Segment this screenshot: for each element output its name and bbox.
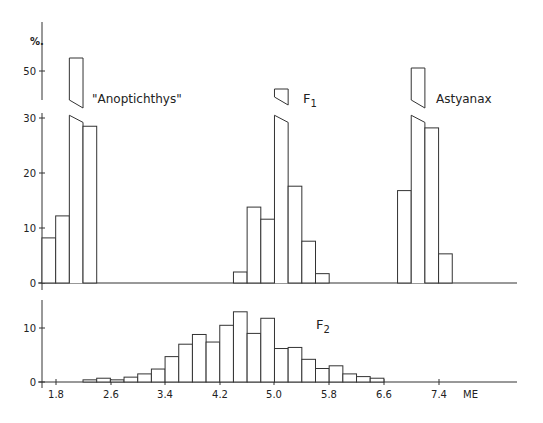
histogram-bar xyxy=(370,378,384,382)
histogram-bar xyxy=(261,318,275,382)
histogram-bar xyxy=(110,380,124,382)
histogram-bar-break-top xyxy=(274,89,288,105)
x-tick-label: 1.8 xyxy=(48,389,64,400)
y-unit-label: %. xyxy=(30,36,44,47)
histogram-bar xyxy=(439,254,453,283)
upper-y-tick-label: 50 xyxy=(23,66,36,77)
histogram-bar xyxy=(233,312,247,382)
histogram-bar-break-top xyxy=(69,58,83,108)
histogram-bar xyxy=(329,366,343,382)
upper-y-tick-label: 0 xyxy=(30,278,36,289)
x-tick-label: 5.8 xyxy=(321,389,337,400)
histogram-bar xyxy=(425,128,439,283)
histogram-bar xyxy=(288,186,302,283)
histogram-bar xyxy=(42,238,56,283)
histogram-bar xyxy=(288,347,302,382)
histogram-bar xyxy=(302,241,316,283)
upper-panel: 010203050 xyxy=(23,22,517,290)
x-tick-label: 3.4 xyxy=(157,389,173,400)
histogram-bar xyxy=(274,115,288,283)
f2-sub: 2 xyxy=(323,324,329,335)
histogram-bar xyxy=(316,274,330,283)
histogram-bar-break-top xyxy=(411,68,425,108)
f2-label: F2 xyxy=(316,317,330,335)
f1-sub: 1 xyxy=(310,98,316,109)
astyanax-label: Astyanax xyxy=(436,92,492,106)
histogram-bar xyxy=(357,377,371,382)
x-tick-label: 4.2 xyxy=(212,389,228,400)
histogram-bar xyxy=(398,191,412,283)
lower-y-tick-label: 0 xyxy=(30,377,36,388)
lower-panel: 0101.82.63.44.25.05.86.67.4 xyxy=(23,300,517,400)
histogram-bar xyxy=(316,369,330,383)
upper-y-tick-label: 20 xyxy=(23,168,36,179)
histogram-bar xyxy=(302,359,316,382)
histogram-bar xyxy=(138,374,152,382)
histogram-bar xyxy=(56,216,70,283)
histogram-bar xyxy=(261,219,275,283)
histogram-bar xyxy=(220,325,234,382)
x-tick-label: 7.4 xyxy=(431,389,447,400)
histogram-bar xyxy=(69,115,83,283)
lower-y-tick-label: 10 xyxy=(23,323,36,334)
histogram-bar xyxy=(192,334,206,382)
x-tick-label: 5.0 xyxy=(266,389,282,400)
f1-label: F1 xyxy=(303,91,317,109)
x-tick-label: 2.6 xyxy=(103,389,119,400)
histogram-bar xyxy=(233,272,247,283)
histogram-bar xyxy=(151,369,165,382)
histogram-bar xyxy=(411,115,425,283)
x-unit-label: ME xyxy=(463,389,478,400)
histogram-bar xyxy=(274,349,288,382)
f2-main: F xyxy=(316,317,323,332)
histogram-bar xyxy=(247,207,261,283)
x-tick-label: 6.6 xyxy=(376,389,392,400)
histogram-figure: 010203050 0101.82.63.44.25.05.86.67.4 %.… xyxy=(0,0,543,423)
upper-y-tick-label: 10 xyxy=(23,223,36,234)
histogram-bar xyxy=(124,377,138,382)
histogram-bar xyxy=(83,126,97,283)
histogram-bar xyxy=(83,380,97,382)
histogram-bar xyxy=(343,374,357,382)
histogram-bar xyxy=(206,342,220,382)
f1-main: F xyxy=(303,91,310,106)
histogram-bar xyxy=(97,378,111,382)
anoptichthys-label: "Anoptichthys" xyxy=(92,92,182,106)
histogram-bar xyxy=(247,333,261,382)
histogram-bar xyxy=(179,344,193,382)
upper-y-tick-label: 30 xyxy=(23,113,36,124)
histogram-bar xyxy=(165,357,179,382)
